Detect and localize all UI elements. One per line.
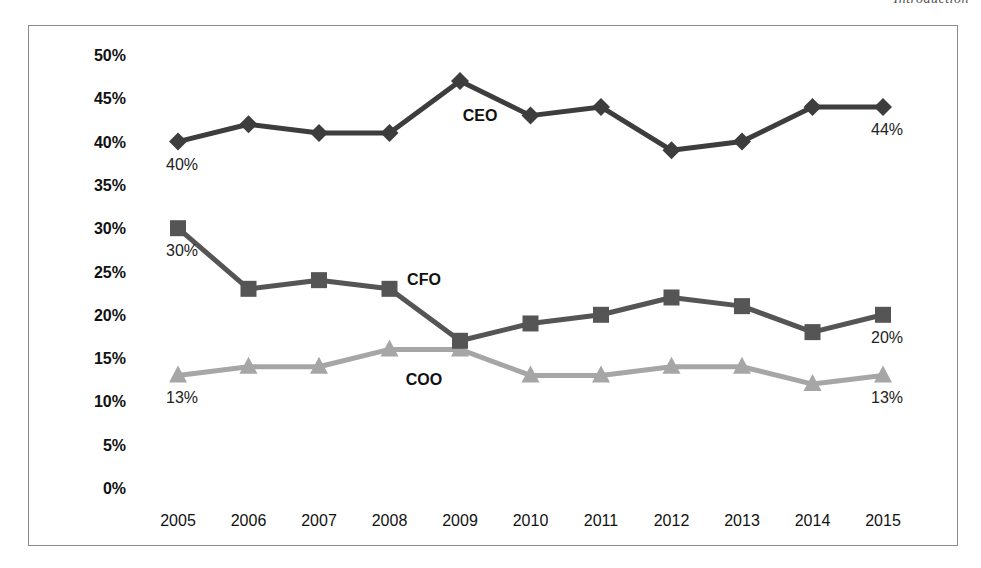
y-tick-label: 40% <box>94 134 126 151</box>
square-marker <box>734 298 750 314</box>
data-label: 20% <box>871 329 903 346</box>
square-marker <box>805 324 821 340</box>
y-tick-label: 15% <box>94 350 126 367</box>
square-marker <box>523 315 539 331</box>
diamond-marker <box>310 124 328 142</box>
x-tick-label: 2013 <box>724 512 760 529</box>
series-name-label: CFO <box>407 271 441 288</box>
y-axis: 0%5%10%15%20%25%30%35%40%45%50% <box>94 47 126 497</box>
y-tick-label: 5% <box>103 437 126 454</box>
y-tick-label: 10% <box>94 393 126 410</box>
x-axis: 2005200620072008200920102011201220132014… <box>160 512 901 529</box>
x-tick-label: 2010 <box>513 512 549 529</box>
square-marker <box>170 220 186 236</box>
series-name-label: COO <box>406 371 442 388</box>
square-marker <box>382 281 398 297</box>
x-tick-label: 2012 <box>654 512 690 529</box>
diamond-marker <box>733 133 751 151</box>
data-label: 30% <box>166 242 198 259</box>
series-lines <box>169 72 892 391</box>
series-cfo <box>170 220 891 349</box>
diamond-marker <box>522 107 540 125</box>
square-marker <box>664 289 680 305</box>
data-label: 44% <box>871 121 903 138</box>
x-tick-label: 2009 <box>442 512 478 529</box>
data-label: 40% <box>166 156 198 173</box>
y-tick-label: 30% <box>94 220 126 237</box>
x-tick-label: 2005 <box>160 512 196 529</box>
series-coo <box>169 339 892 391</box>
y-tick-label: 20% <box>94 307 126 324</box>
square-marker <box>452 333 468 349</box>
y-tick-label: 0% <box>103 480 126 497</box>
series-name-label: CEO <box>463 107 498 124</box>
x-tick-label: 2011 <box>584 512 619 529</box>
square-marker <box>241 281 257 297</box>
x-tick-label: 2014 <box>795 512 831 529</box>
series-labels: COO13%13%CFO30%20%CEO40%44% <box>166 107 903 406</box>
square-marker <box>875 307 891 323</box>
data-label: 13% <box>871 389 903 406</box>
data-label: 13% <box>166 389 198 406</box>
x-tick-label: 2007 <box>301 512 337 529</box>
x-tick-label: 2006 <box>231 512 267 529</box>
diamond-marker <box>804 98 822 116</box>
series-ceo <box>169 72 892 159</box>
diamond-marker <box>240 115 258 133</box>
square-marker <box>311 272 327 288</box>
x-tick-label: 2008 <box>372 512 408 529</box>
line-chart: 0%5%10%15%20%25%30%35%40%45%50% 20052006… <box>0 0 981 568</box>
y-tick-label: 45% <box>94 90 126 107</box>
square-marker <box>593 307 609 323</box>
diamond-marker <box>874 98 892 116</box>
y-tick-label: 35% <box>94 177 126 194</box>
x-tick-label: 2015 <box>865 512 901 529</box>
diamond-marker <box>169 133 187 151</box>
y-tick-label: 50% <box>94 47 126 64</box>
y-tick-label: 25% <box>94 264 126 281</box>
